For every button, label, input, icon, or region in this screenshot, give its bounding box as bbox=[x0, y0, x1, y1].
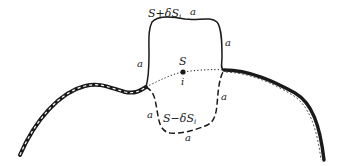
lower-surface-label: S−δSi bbox=[163, 112, 196, 126]
point-s-i bbox=[180, 69, 185, 74]
edge-a-lower-right: a bbox=[221, 91, 227, 102]
edge-a-lower-left: a bbox=[147, 109, 153, 120]
boundary-curve-left bbox=[20, 85, 146, 155]
lower-surface-text: S−δS bbox=[163, 112, 194, 125]
surface-variation-diagram: S i S+δSi S−δSi a a a a a a bbox=[0, 0, 343, 166]
edge-a-upper-left: a bbox=[137, 58, 143, 69]
upper-surface-text: S+δS bbox=[148, 7, 179, 20]
edge-a-upper-right: a bbox=[225, 37, 231, 48]
upper-surface-curve bbox=[146, 17, 224, 87]
point-index-label: i bbox=[181, 76, 184, 87]
boundary-curve-right bbox=[224, 70, 324, 160]
upper-surface-label: S+δSi bbox=[148, 7, 181, 21]
edge-a-bottom: a bbox=[185, 132, 191, 143]
lower-surface-subscript: i bbox=[194, 118, 196, 126]
upper-surface-subscript: i bbox=[179, 13, 181, 21]
edge-a-top: a bbox=[190, 6, 196, 17]
point-label: S bbox=[179, 55, 187, 68]
